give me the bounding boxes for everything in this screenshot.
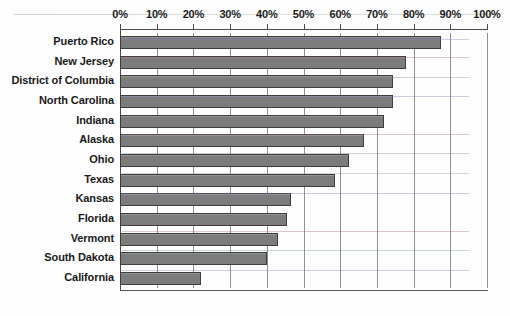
x-axis-tick-label: 0% xyxy=(112,8,128,20)
category-label: Florida xyxy=(0,212,114,224)
tick-mark xyxy=(414,24,415,30)
gridline-90pct xyxy=(450,33,451,288)
tick-mark xyxy=(340,24,341,30)
category-label: Texas xyxy=(0,173,114,185)
x-axis-baseline xyxy=(120,290,488,291)
x-axis-tick-label: 50% xyxy=(293,8,314,20)
bar xyxy=(120,193,291,206)
gridline-70pct xyxy=(377,33,378,288)
bar xyxy=(120,56,406,69)
category-label: South Dakota xyxy=(0,251,114,263)
x-axis-tick-label: 70% xyxy=(366,8,387,20)
tick-mark xyxy=(304,24,305,30)
tick-mark xyxy=(377,24,378,30)
category-label: Puerto Rico xyxy=(0,35,114,47)
x-axis-tick-label: 10% xyxy=(146,8,167,20)
category-label: District of Columbia xyxy=(0,74,114,86)
x-axis-tick-label: 30% xyxy=(219,8,240,20)
bar xyxy=(120,252,267,265)
tick-mark xyxy=(450,24,451,30)
category-label: California xyxy=(0,271,114,283)
bar xyxy=(120,95,393,108)
bar-chart: 0%10%20%30%40%50%60%70%80%90%100% Puerto… xyxy=(0,0,510,316)
category-label: Ohio xyxy=(0,153,114,165)
bar xyxy=(120,272,201,285)
scan-artifact-line xyxy=(122,250,469,251)
x-axis-tick-label: 80% xyxy=(403,8,424,20)
tick-mark xyxy=(267,24,268,30)
tick-mark xyxy=(120,24,121,30)
category-label: North Carolina xyxy=(0,94,114,106)
x-axis-tick-label: 100% xyxy=(473,8,500,20)
bar xyxy=(120,115,384,128)
category-label: Alaska xyxy=(0,133,114,145)
gridline-80pct xyxy=(414,33,415,288)
gridline-100pct xyxy=(487,33,488,288)
tick-mark xyxy=(230,24,231,30)
bar xyxy=(120,174,335,187)
bar xyxy=(120,36,441,49)
bar xyxy=(120,233,278,246)
bar xyxy=(120,75,393,88)
bar xyxy=(120,213,287,226)
bar xyxy=(120,154,349,167)
category-label: Vermont xyxy=(0,232,114,244)
bar xyxy=(120,134,364,147)
x-axis-tick-label: 40% xyxy=(256,8,277,20)
x-axis-tick-label: 20% xyxy=(183,8,204,20)
x-axis-tick-label: 90% xyxy=(440,8,461,20)
tick-mark xyxy=(157,24,158,30)
plot-area xyxy=(120,33,487,288)
category-label: New Jersey xyxy=(0,55,114,67)
x-axis-tick-label: 60% xyxy=(329,8,350,20)
category-label: Indiana xyxy=(0,114,114,126)
tick-mark xyxy=(193,24,194,30)
category-label: Kansas xyxy=(0,192,114,204)
tick-mark xyxy=(487,24,488,30)
